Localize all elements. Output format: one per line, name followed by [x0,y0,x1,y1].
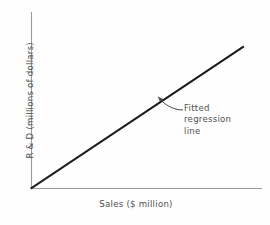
annotation-line-2: regression [184,114,262,125]
x-axis-label: Sales ($ million) [60,200,212,209]
fitted-regression-line-annotation: Fitted regression line [184,103,262,137]
regression-figure: R & D (millions of dollars) Sales ($ mil… [0,0,270,225]
annotation-leader-line [161,100,184,111]
annotation-line-3: line [184,126,262,137]
y-axis-label: R & D (millions of dollars) [26,25,35,175]
annotation-line-1: Fitted [184,103,262,114]
